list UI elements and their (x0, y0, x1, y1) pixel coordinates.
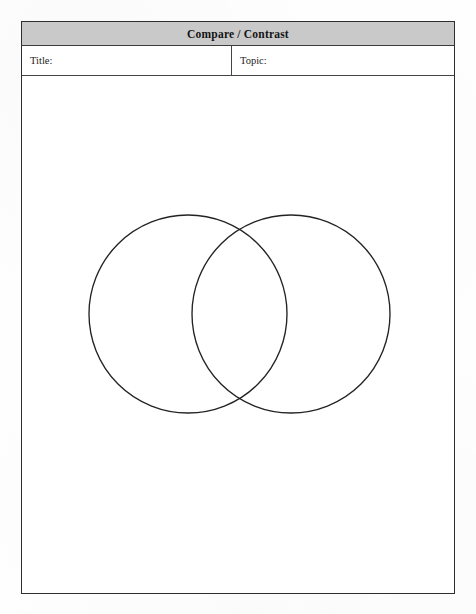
title-field-label: Title: (30, 55, 52, 66)
title-field-cell[interactable]: Title: (22, 46, 232, 75)
worksheet-header-band: Compare / Contrast (22, 22, 454, 46)
field-row: Title: Topic: (22, 46, 454, 76)
venn-circle-right[interactable] (192, 215, 390, 413)
venn-diagram (22, 76, 454, 593)
topic-field-label: Topic: (240, 55, 267, 66)
page-title: Compare / Contrast (187, 28, 289, 40)
diagram-work-area[interactable] (22, 76, 454, 593)
worksheet-frame: Compare / Contrast Title: Topic: (21, 21, 455, 594)
topic-field-cell[interactable]: Topic: (232, 46, 454, 75)
worksheet-page: Compare / Contrast Title: Topic: (0, 0, 476, 614)
venn-circle-left[interactable] (89, 215, 287, 413)
